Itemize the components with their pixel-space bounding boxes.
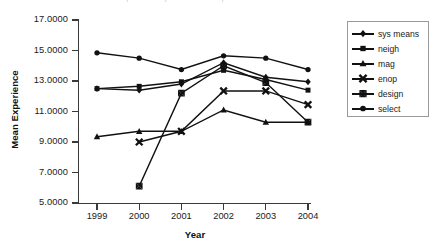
legend-label: sys means — [375, 29, 419, 39]
marker-square — [137, 84, 142, 89]
marker-bowtie — [220, 62, 227, 69]
legend-item-design[interactable]: design — [351, 86, 425, 101]
marker-circle — [305, 67, 310, 72]
chart-figure: Mean Experience by Year and Group 5.0000… — [0, 0, 433, 249]
marker-circle — [221, 53, 226, 58]
marker-bowtie — [305, 119, 312, 126]
legend-label: select — [375, 104, 400, 114]
legend-label: enop — [375, 74, 397, 84]
legend-symbol-circle — [351, 102, 375, 115]
legend-item-select[interactable]: select — [351, 101, 425, 116]
marker-diamond — [305, 78, 311, 85]
marker-triangle — [220, 107, 226, 113]
legend-label: design — [375, 89, 403, 99]
series-line — [97, 53, 308, 70]
marker-bowtie — [359, 90, 366, 97]
legend-symbol-triangle — [351, 57, 375, 70]
legend-symbol-diamond — [351, 27, 375, 40]
legend-symbol-cross — [351, 72, 375, 85]
marker-cross — [359, 75, 366, 82]
legend: sys meansneighmagenopdesignselect — [347, 21, 429, 117]
marker-circle — [179, 67, 184, 72]
marker-circle — [94, 50, 99, 55]
marker-bowtie — [262, 79, 269, 86]
legend-symbol-bowtie — [351, 87, 375, 100]
marker-circle — [137, 55, 142, 60]
marker-triangle — [360, 60, 367, 66]
legend-symbol-square — [351, 42, 375, 55]
marker-square — [95, 86, 100, 91]
series-line — [97, 110, 308, 137]
marker-square — [306, 88, 311, 93]
legend-item-enop[interactable]: enop — [351, 71, 425, 86]
marker-square — [179, 79, 184, 84]
marker-diamond — [360, 30, 366, 37]
series-select — [94, 50, 310, 72]
legend-label: mag — [375, 59, 395, 69]
series-design — [136, 62, 312, 189]
legend-item-sys-means[interactable]: sys means — [351, 26, 425, 41]
legend-label: neigh — [375, 44, 399, 54]
marker-square — [360, 46, 365, 51]
marker-circle — [360, 106, 366, 112]
marker-circle — [263, 55, 268, 60]
marker-bowtie — [178, 90, 185, 97]
marker-bowtie — [136, 183, 143, 190]
legend-item-neigh[interactable]: neigh — [351, 41, 425, 56]
legend-item-mag[interactable]: mag — [351, 56, 425, 71]
